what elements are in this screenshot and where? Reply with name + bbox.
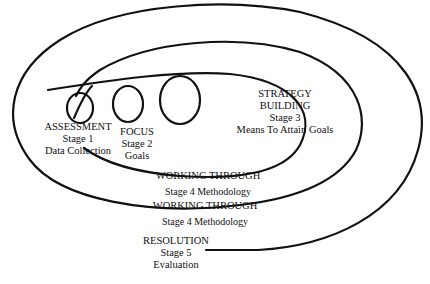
- loop-focus: [113, 86, 143, 122]
- focus-stage: Stage 2: [112, 138, 162, 150]
- loop-assessment-cross: [74, 86, 92, 118]
- stage-working-through-inner-label: WORKING THROUGH Stage 4 Methodology: [148, 170, 268, 198]
- working-through-1-title: WORKING THROUGH: [148, 170, 268, 182]
- working-through-2-stage: Stage 4 Methodology: [140, 216, 270, 228]
- loop-assessment: [67, 93, 93, 123]
- focus-subtitle: Goals: [112, 150, 162, 162]
- focus-title: FOCUS: [112, 126, 162, 138]
- stage-strategy-label: STRATEGY BUILDING Stage 3 Means To Attai…: [225, 88, 345, 136]
- stage-focus-label: FOCUS Stage 2 Goals: [112, 126, 162, 162]
- working-through-2-title: WORKING THROUGH: [140, 200, 270, 212]
- strategy-title-line1: STRATEGY: [225, 88, 345, 100]
- resolution-title: RESOLUTION: [136, 235, 216, 247]
- strategy-subtitle: Means To Attain Goals: [225, 124, 345, 136]
- strategy-title-line2: BUILDING: [225, 100, 345, 112]
- stage-resolution-label: RESOLUTION Stage 5 Evaluation: [136, 235, 216, 271]
- resolution-subtitle: Evaluation: [136, 259, 216, 271]
- strategy-stage: Stage 3: [225, 112, 345, 124]
- stage-working-through-outer-label: WORKING THROUGH Stage 4 Methodology: [140, 200, 270, 228]
- working-through-1-stage: Stage 4 Methodology: [148, 186, 268, 198]
- resolution-stage: Stage 5: [136, 247, 216, 259]
- loop-strategy: [160, 76, 200, 124]
